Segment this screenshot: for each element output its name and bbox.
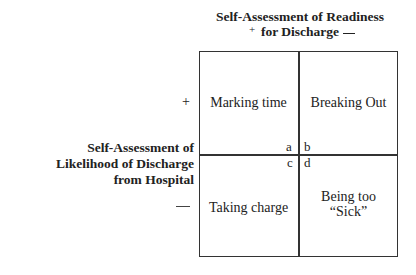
left-axis-title-line3: from Hospital	[0, 172, 194, 188]
top-axis-title-line2: for Discharge	[200, 24, 400, 39]
left-axis-title-line1: Self-Assessment of	[0, 140, 194, 156]
quadrant-d-label-line1: Being too	[299, 189, 398, 204]
quadrant-d-label-line2: “Sick”	[299, 204, 398, 219]
quadrant-a-label: Marking time	[199, 95, 298, 110]
top-axis-minus-sign	[343, 19, 355, 34]
left-axis-title: Self-Assessment of Likelihood of Dischar…	[0, 140, 194, 188]
quadrant-c-letter: c	[287, 155, 293, 171]
quadrant-b-label: Breaking Out	[299, 95, 398, 110]
quadrant-a-letter: a	[286, 139, 292, 155]
quadrant-c-label: Taking charge	[199, 200, 298, 215]
top-axis-title-line1: Self-Assessment of Readiness	[200, 9, 400, 24]
quadrant-d-letter: d	[304, 155, 311, 171]
matrix-horizontal-divider	[199, 154, 398, 156]
left-axis-minus-sign	[176, 206, 190, 207]
quadrant-d-label: Being too “Sick”	[299, 189, 398, 219]
top-axis-plus-sign: +	[249, 23, 255, 35]
quadrant-b-letter: b	[304, 139, 311, 155]
top-axis-title: Self-Assessment of Readiness for Dischar…	[200, 9, 400, 39]
left-axis-title-line2: Likelihood of Discharge	[0, 156, 194, 172]
left-axis-plus-sign: +	[182, 94, 190, 110]
